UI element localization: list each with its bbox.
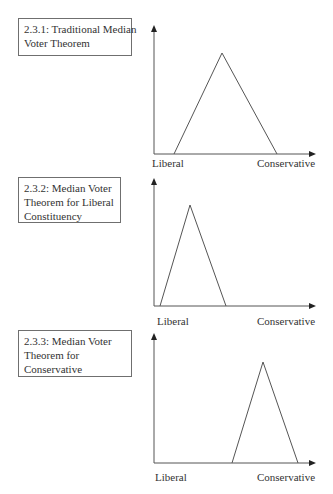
voter-distribution-triangle <box>174 53 277 154</box>
y-axis <box>151 178 157 306</box>
x-label-conservative: Conservative <box>257 315 315 327</box>
x-label-liberal: Liberal <box>152 157 184 169</box>
panel-2-3-1: 2.3.1: Traditional Median Voter Theorem … <box>0 0 333 170</box>
y-axis-arrow-icon <box>151 178 157 185</box>
x-axis-arrow-icon <box>309 303 316 309</box>
x-label-conservative: Conservative <box>257 157 315 169</box>
y-axis <box>151 25 157 154</box>
caption-line: Theorem for <box>24 348 127 362</box>
caption-line: Conservative <box>24 362 127 376</box>
y-axis-arrow-icon <box>151 25 157 32</box>
x-label-conservative: Conservative <box>257 471 315 483</box>
y-axis <box>151 333 157 463</box>
median-voter-chart <box>0 0 333 170</box>
x-axis <box>154 303 316 309</box>
x-label-liberal: Liberal <box>155 471 187 483</box>
caption-line: Constituency <box>24 209 116 223</box>
voter-distribution-triangle <box>160 205 226 306</box>
caption-line: 2.3.3: Median Voter <box>24 334 127 348</box>
x-axis <box>154 460 316 466</box>
voter-distribution-triangle <box>232 362 298 463</box>
x-label-liberal: Liberal <box>157 315 189 327</box>
x-axis-arrow-icon <box>309 460 316 466</box>
caption-box: 2.3.2: Median Voter Theorem for Liberal … <box>18 177 121 223</box>
y-axis-arrow-icon <box>151 333 157 340</box>
caption-line: 2.3.2: Median Voter <box>24 181 116 195</box>
caption-box: 2.3.3: Median Voter Theorem for Conserva… <box>18 330 132 377</box>
caption-line: Theorem for Liberal <box>24 195 116 209</box>
